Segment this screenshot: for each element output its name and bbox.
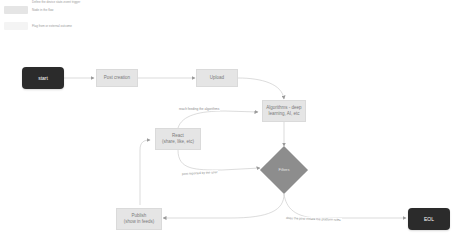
legend-label: Flag from or external outcome — [32, 24, 72, 28]
node-algorithms-label-line2: learning, AI, etc — [268, 111, 299, 117]
node-react-label-line2: (share, like, etc) — [162, 139, 194, 145]
edge-label-reach: reach feeding the algorithms — [178, 107, 220, 111]
node-eol[interactable]: EOL — [408, 208, 450, 230]
legend-swatch — [4, 6, 28, 14]
node-publish-label-line2: (show in feeds) — [124, 219, 155, 225]
node-upload[interactable]: Upload — [196, 69, 238, 87]
edges-layer — [0, 0, 464, 241]
legend-item-node: Node in the flow — [4, 6, 54, 14]
node-post-creation[interactable]: Post creation — [96, 69, 138, 87]
node-react[interactable]: React (share, like, etc) — [155, 128, 201, 150]
flowchart-canvas: Define the device state-event trigger No… — [0, 0, 464, 241]
edge-label-violate: does the post violate the platform rules — [285, 216, 342, 222]
node-start[interactable]: start — [22, 67, 64, 89]
legend-label: Node in the flow — [32, 8, 54, 12]
legend-item-flag: Flag from or external outcome — [4, 22, 72, 30]
node-eol-label: EOL — [424, 216, 434, 222]
node-start-label: start — [38, 75, 48, 81]
legend-label: Define the device state-event trigger — [32, 0, 80, 4]
node-filters-label: Filters — [264, 167, 304, 172]
node-upload-label: Upload — [210, 75, 224, 81]
edge-label-reported: post reported by the user — [181, 170, 219, 176]
legend-swatch — [4, 22, 28, 30]
node-algorithms[interactable]: Algorithms - deep learning, AI, etc — [262, 100, 306, 122]
node-post-creation-label: Post creation — [104, 75, 130, 81]
node-publish[interactable]: Publish (show in feeds) — [116, 208, 162, 230]
